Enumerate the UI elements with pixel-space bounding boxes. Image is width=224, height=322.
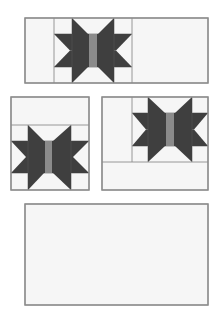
top-panel [25, 18, 208, 83]
panel-background [25, 18, 208, 83]
center-strip [89, 34, 97, 67]
bottom-panel [25, 204, 208, 305]
center-strip [166, 113, 174, 146]
middle-right-panel [102, 97, 208, 190]
panel-background [25, 204, 208, 305]
quilt-layout-diagram [0, 0, 224, 322]
center-strip [45, 141, 52, 173]
middle-left-panel [11, 97, 89, 190]
